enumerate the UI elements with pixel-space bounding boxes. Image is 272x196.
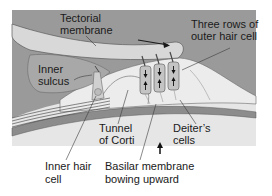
label-basilar-membrane: Basilar membrane bowing upward [105, 160, 197, 185]
label-tunnel-of-corti: Tunnel of Corti [99, 122, 135, 146]
label-outer-hair-cells: Three rows of outer hair cell [191, 18, 261, 42]
label-inner-sulcus: Inner sulcus [38, 63, 70, 87]
organ-of-corti-diagram: Tectorial membrane Inner sulcus Three ro… [0, 0, 272, 196]
label-inner-hair-cell: Inner hair cell [45, 160, 95, 185]
